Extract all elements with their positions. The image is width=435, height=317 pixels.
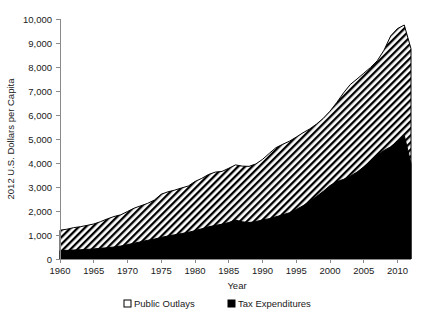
chart-container: 01,0002,0003,0004,0005,0006,0007,0008,00… (0, 0, 435, 317)
x-tick-label: 2010 (387, 265, 408, 276)
y-tick-label: 4,000 (28, 158, 52, 169)
x-tick-label: 1985 (218, 265, 239, 276)
y-tick-label: 6,000 (28, 110, 52, 121)
x-tick-label: 1990 (252, 265, 273, 276)
y-tick-label: 3,000 (28, 182, 52, 193)
y-tick-label: 1,000 (28, 230, 52, 241)
x-axis-tick-labels: 1960196519701975198019851990199520002005… (49, 265, 408, 276)
x-tick-label: 1980 (184, 265, 205, 276)
legend-label-public-outlays: Public Outlays (134, 298, 195, 309)
x-axis-title: Year (227, 280, 246, 291)
x-tick-label: 2000 (319, 265, 340, 276)
y-tick-label: 5,000 (28, 134, 52, 145)
x-tick-label: 1970 (117, 265, 138, 276)
y-tick-label: 2,000 (28, 206, 52, 217)
y-tick-label: 10,000 (23, 14, 52, 25)
x-tick-label: 1965 (83, 265, 104, 276)
x-tick-label: 1960 (49, 265, 70, 276)
y-tick-label: 0 (47, 254, 52, 265)
legend-label-tax-expenditures: Tax Expenditures (238, 298, 311, 309)
y-tick-label: 7,000 (28, 86, 52, 97)
legend-marker-tax-expenditures (228, 300, 235, 307)
y-axis-title: 2012 U.S. Dollars per Capita (5, 78, 16, 200)
stacked-area-chart: 01,0002,0003,0004,0005,0006,0007,0008,00… (0, 0, 435, 317)
legend-marker-public-outlays (124, 300, 131, 307)
y-tick-label: 9,000 (28, 38, 52, 49)
x-tick-label: 2005 (353, 265, 374, 276)
y-tick-label: 8,000 (28, 62, 52, 73)
x-tick-label: 1995 (286, 265, 307, 276)
x-tick-label: 1975 (151, 265, 172, 276)
